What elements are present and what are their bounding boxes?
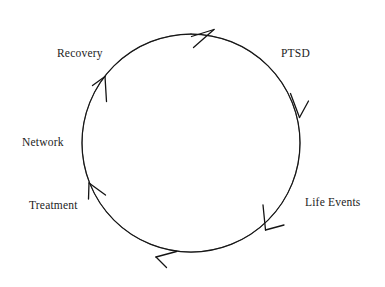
- cycle-node-label-treatment: Treatment: [29, 200, 78, 212]
- cycle-node-label-recovery: Recovery: [57, 48, 103, 60]
- cycle-node-label-network: Network: [22, 137, 64, 149]
- cycle-ring: [82, 34, 300, 252]
- cycle-node-label-life-events: Life Events: [305, 197, 361, 209]
- arrow-upper-left-icon: [93, 77, 107, 102]
- cycle-diagram-canvas: Recovery PTSD Network Treatment Life Eve…: [0, 0, 385, 287]
- arrowhead-group: [89, 30, 309, 268]
- cycle-node-label-ptsd: PTSD: [281, 48, 310, 60]
- cycle-ring-ink-overlay: [82, 34, 300, 252]
- arrow-bottom-icon: [156, 252, 177, 268]
- cycle-ring-group: [82, 34, 300, 252]
- arrow-top-icon: [192, 30, 215, 48]
- arrow-lower-right-icon: [263, 205, 284, 230]
